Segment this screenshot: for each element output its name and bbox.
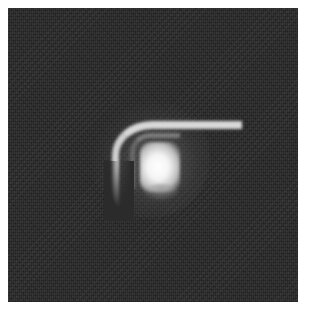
core-tail [143,184,179,200]
arc-fade [104,161,134,221]
image-frame [8,8,298,302]
